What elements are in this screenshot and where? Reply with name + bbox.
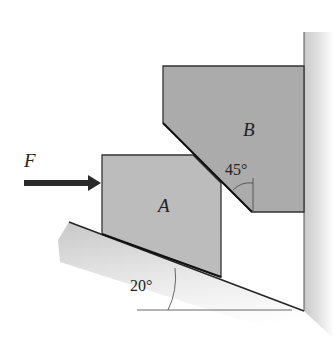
incline-angle-label: 20° bbox=[130, 277, 152, 294]
block-b-label: B bbox=[243, 119, 255, 140]
vertical-wall bbox=[304, 32, 334, 339]
block-a-label: A bbox=[156, 195, 170, 216]
force-arrow bbox=[24, 175, 101, 191]
diagram-canvas: F A B 45° 20° bbox=[0, 0, 334, 339]
wedge-angle-label: 45° bbox=[225, 161, 247, 178]
force-label: F bbox=[23, 150, 36, 171]
